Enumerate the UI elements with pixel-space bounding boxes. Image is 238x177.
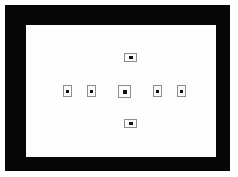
af-point-bottom[interactable]: Bottom AF point [124,119,137,128]
viewfinder-frame: Viewfinder mask Focusing screen Top AF p… [5,5,230,171]
af-point-right[interactable]: Right AF point [153,85,162,97]
af-point-dot-icon [129,56,133,59]
af-point-dot-icon [156,90,159,93]
af-point-dot-icon [90,90,93,93]
af-point-center[interactable]: Center AF point [118,85,131,98]
af-point-far-left[interactable]: Far left AF point [63,85,72,97]
af-point-dot-icon [129,122,133,125]
af-point-dot-icon [66,90,69,93]
af-point-left[interactable]: Left AF point [87,85,96,97]
focusing-screen: Focusing screen Top AF point Far left AF… [26,25,216,157]
af-point-far-right[interactable]: Far right AF point [177,85,186,97]
viewfinder-frame-label: Viewfinder mask [5,5,6,6]
viewfinder-screen: Viewfinder mask Focusing screen Top AF p… [0,0,238,177]
af-point-dot-icon [123,90,127,94]
af-point-top[interactable]: Top AF point [124,53,137,62]
focusing-screen-label: Focusing screen [26,25,27,26]
af-point-dot-icon [180,90,183,93]
